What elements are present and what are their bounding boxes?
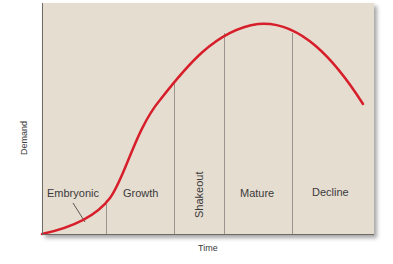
stage-label-growth: Growth bbox=[123, 187, 158, 199]
x-axis bbox=[42, 234, 374, 235]
y-axis bbox=[42, 3, 43, 235]
chart-plot bbox=[0, 0, 393, 264]
stage-label-shakeout: Shakeout bbox=[193, 172, 205, 218]
y-axis-label: Demand bbox=[19, 121, 29, 155]
stage-label-decline: Decline bbox=[312, 186, 349, 198]
stage-label-embryonic: Embryonic bbox=[47, 187, 99, 199]
x-axis-label: Time bbox=[198, 243, 218, 253]
stage-label-mature: Mature bbox=[240, 187, 274, 199]
